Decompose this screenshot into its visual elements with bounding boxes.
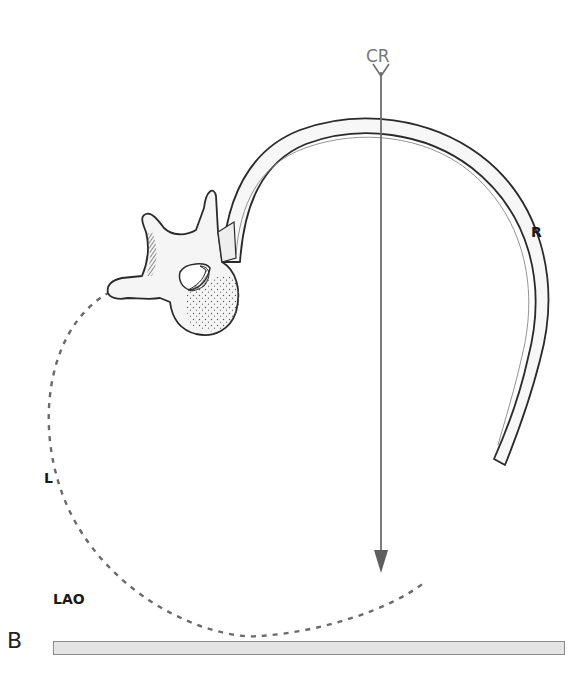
dashed-body-outline	[49, 292, 425, 636]
vertebra	[108, 191, 240, 335]
left-side-label: L	[44, 470, 53, 486]
projection-label: LAO	[53, 591, 85, 607]
right-side-label: R	[531, 224, 542, 240]
rib	[222, 118, 548, 465]
panel-label: B	[7, 628, 22, 653]
lao-projection-diagram: CR R L LAO B	[0, 0, 583, 695]
central-ray-arrow	[373, 64, 389, 573]
image-receptor-plate	[53, 641, 565, 655]
central-ray-label: CR	[366, 46, 390, 66]
